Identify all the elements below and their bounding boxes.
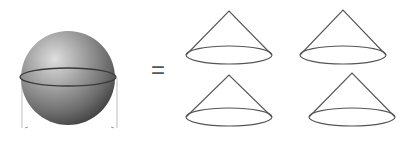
cone-top-left xyxy=(186,11,272,64)
equals-sign: = xyxy=(151,56,165,83)
cones-group xyxy=(186,10,395,126)
left-guide-tick xyxy=(25,127,28,128)
cone-base-ellipse xyxy=(300,46,386,64)
sphere-equals-four-cones-diagram: Volume of sphere equals volume of four c… xyxy=(0,0,411,150)
equals-operator: = xyxy=(151,56,165,83)
sphere xyxy=(20,31,116,125)
cone-top-right xyxy=(300,10,386,64)
cone-base-ellipse xyxy=(309,108,395,126)
right-guide-tick xyxy=(111,127,114,128)
cone-base-ellipse xyxy=(186,108,272,126)
cone-base-ellipse xyxy=(186,46,272,64)
cone-bottom-right xyxy=(309,73,395,126)
sphere-body xyxy=(21,31,115,125)
cone-bottom-left xyxy=(186,75,272,126)
diagram-canvas: = xyxy=(0,0,411,150)
